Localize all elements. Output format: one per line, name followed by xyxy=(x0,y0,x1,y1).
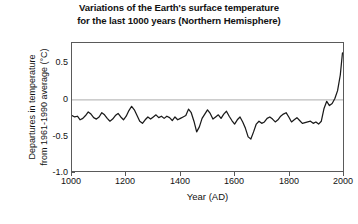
x-tick-label-3: 1600 xyxy=(214,176,254,186)
x-tick-label-1: 1200 xyxy=(105,176,145,186)
x-tick-label-4: 1800 xyxy=(269,176,309,186)
y-axis-tick-labels: 0.5 0 -0.5 -1.0 xyxy=(36,0,68,224)
x-axis-tick-labels: 1000 1200 1400 1600 1800 2000 xyxy=(0,176,358,190)
temperature-chart-figure: Variations of the Earth's surface temper… xyxy=(0,0,358,224)
y-tick-label-1: 0 xyxy=(40,95,68,104)
x-tick-label-0: 1000 xyxy=(51,176,91,186)
x-tick-label-2: 1400 xyxy=(160,176,200,186)
y-tick-label-2: -0.5 xyxy=(40,132,68,141)
plot-area xyxy=(71,42,344,172)
y-tick-label-0: 0.5 xyxy=(40,58,68,67)
temperature-series-line xyxy=(72,53,342,139)
x-axis-label: Year (AD) xyxy=(71,191,344,202)
x-tick-label-5: 2000 xyxy=(323,176,358,186)
plot-svg xyxy=(72,43,343,171)
